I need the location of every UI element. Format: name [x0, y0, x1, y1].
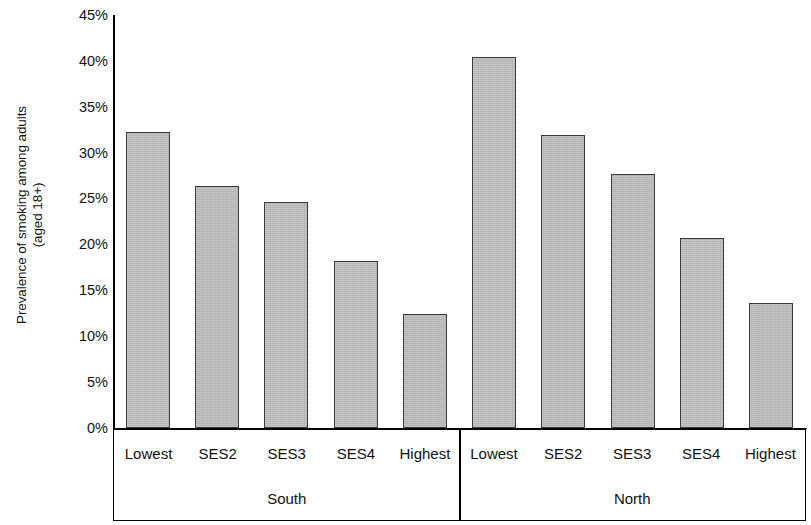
- bar: [749, 303, 793, 428]
- bar: [403, 314, 447, 428]
- category-label: SES2: [183, 430, 252, 476]
- category-label: SES4: [321, 430, 390, 476]
- y-axis-tick-label: 5%: [62, 375, 108, 390]
- y-axis-tick-label: 20%: [62, 237, 108, 252]
- y-axis-title-line-1: Prevalence of smoking among adults: [14, 106, 30, 324]
- category-label: Lowest: [114, 430, 183, 476]
- y-axis-tick-label: 10%: [62, 329, 108, 344]
- y-axis-tick-label: 0%: [62, 421, 108, 436]
- y-axis-tick-labels: 45%40%35%30%25%20%15%10%5%0%: [58, 0, 108, 440]
- category-label: Lowest: [459, 430, 528, 476]
- y-axis-tick-label: 45%: [62, 8, 108, 23]
- bar: [611, 174, 655, 428]
- bar: [195, 186, 239, 428]
- bar: [126, 132, 170, 427]
- bar-chart: Prevalence of smoking among adults (aged…: [0, 0, 811, 525]
- category-label: Highest: [390, 430, 459, 476]
- plot-area: [113, 15, 807, 429]
- category-label: SES4: [667, 430, 736, 476]
- y-axis-title-line-2: (aged 18+): [30, 106, 46, 324]
- category-label: SES2: [529, 430, 598, 476]
- bar: [264, 202, 308, 428]
- group-divider: [459, 430, 461, 520]
- bar: [472, 57, 516, 427]
- bar: [680, 238, 724, 428]
- y-axis-tick-label: 25%: [62, 191, 108, 206]
- category-label: SES3: [252, 430, 321, 476]
- y-axis-tick-label: 30%: [62, 146, 108, 161]
- y-axis-title: Prevalence of smoking among adults (aged…: [0, 0, 60, 430]
- y-axis-line: [113, 15, 115, 429]
- category-axis-table: LowestSES2SES3SES4HighestLowestSES2SES3S…: [113, 429, 806, 521]
- y-axis-tick-label: 40%: [62, 54, 108, 69]
- group-label: South: [114, 476, 460, 520]
- category-label: SES3: [598, 430, 667, 476]
- bar: [541, 135, 585, 427]
- group-label: North: [460, 476, 806, 520]
- y-axis-tick-label: 15%: [62, 283, 108, 298]
- category-label: Highest: [736, 430, 805, 476]
- bar: [334, 261, 378, 428]
- y-axis-tick-label: 35%: [62, 100, 108, 115]
